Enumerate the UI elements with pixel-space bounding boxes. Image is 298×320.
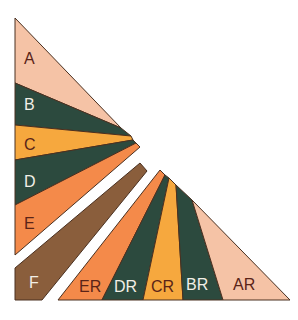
label-a: A (24, 50, 35, 67)
quilt-block-diagram: A B C D E F ER DR CR BR AR (0, 0, 298, 320)
label-c: C (24, 136, 36, 153)
label-dr: DR (114, 278, 137, 295)
label-br: BR (186, 276, 208, 293)
label-d: D (24, 173, 36, 190)
label-b: B (24, 96, 35, 113)
label-e: E (24, 215, 35, 232)
label-er: ER (79, 278, 101, 295)
label-f: F (29, 274, 39, 291)
label-ar: AR (233, 276, 255, 293)
label-cr: CR (151, 278, 174, 295)
